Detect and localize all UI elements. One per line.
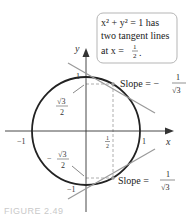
label-upper-slope: Slope = − 1 √3 <box>120 73 186 95</box>
y-axis-arrow-icon <box>83 48 90 57</box>
svg-text:at x =: at x = <box>101 45 124 56</box>
svg-text:two tangent lines: two tangent lines <box>101 30 169 41</box>
svg-text:1: 1 <box>133 43 137 51</box>
upper-tangent-point <box>111 82 115 86</box>
svg-text:1: 1 <box>166 170 170 179</box>
label-lower-neg-sqrt3-over-2: − √3 2 <box>47 150 69 170</box>
figure-caption: FIGURE 2.49 <box>4 206 64 216</box>
tick-x-1: 1 <box>142 137 146 146</box>
lower-tangent-line <box>68 149 155 199</box>
svg-text:1: 1 <box>176 73 180 82</box>
upper-leader-line <box>73 85 84 93</box>
y-axis-label: y <box>74 43 80 54</box>
figure-canvas: x² + y² = 1 has two tangent lines at x =… <box>0 0 192 218</box>
svg-text:x² + y² = 1 has: x² + y² = 1 has <box>101 17 159 28</box>
svg-text:√3: √3 <box>58 150 66 159</box>
label-upper-sqrt3-over-2: √3 2 <box>56 97 68 117</box>
svg-text:Slope = −: Slope = − <box>120 78 159 89</box>
svg-text:Slope =: Slope = <box>118 175 149 186</box>
tick-x-neg1: −1 <box>17 137 26 146</box>
label-lower-slope: Slope = 1 √3 <box>118 170 175 192</box>
svg-text:2: 2 <box>106 143 109 149</box>
svg-text:1: 1 <box>106 135 109 141</box>
tick-y-1: 1 <box>76 72 80 81</box>
svg-text:√3: √3 <box>161 183 169 192</box>
svg-text:√3: √3 <box>57 97 65 106</box>
x-axis-arrow-icon <box>165 128 174 135</box>
svg-text:.: . <box>139 47 142 58</box>
lower-tangent-point <box>111 176 115 180</box>
svg-text:2: 2 <box>60 108 64 117</box>
tick-x-half: 1 2 <box>105 135 110 149</box>
tick-y-neg1: −1 <box>67 185 76 194</box>
svg-text:2: 2 <box>61 161 65 170</box>
lower-leader-line <box>72 166 84 176</box>
x-axis-label: x <box>165 136 171 147</box>
svg-text:√3: √3 <box>172 86 180 95</box>
svg-text:2: 2 <box>133 52 137 60</box>
svg-text:−: − <box>47 154 52 163</box>
